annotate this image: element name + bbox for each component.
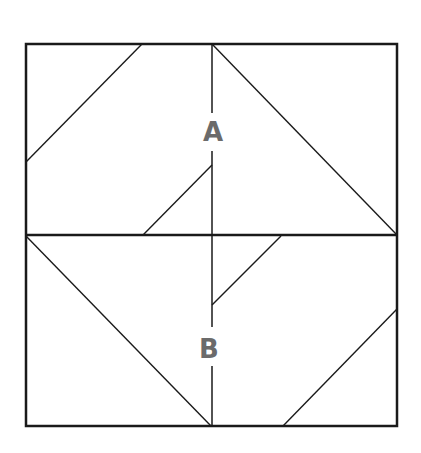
lower-inner-diagonal — [212, 236, 281, 305]
upper-left-diagonal — [26, 44, 142, 162]
lower-left-diagonal — [26, 236, 211, 426]
label-a: A — [198, 119, 228, 145]
geometric-figure — [0, 0, 421, 453]
diagram-canvas: A B — [0, 0, 421, 453]
lower-right-diagonal — [283, 309, 397, 426]
upper-right-diagonal — [212, 44, 397, 235]
label-b: B — [194, 336, 224, 362]
upper-inner-diagonal — [143, 165, 212, 235]
